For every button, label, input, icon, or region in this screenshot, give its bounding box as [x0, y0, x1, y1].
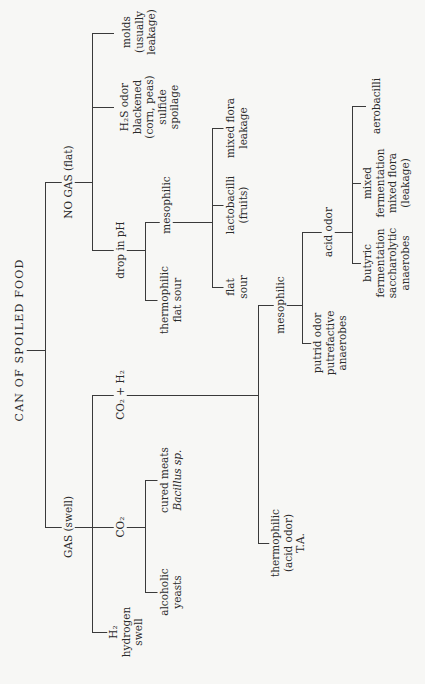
- node-co2: CO₂: [114, 514, 127, 541]
- connector: [212, 128, 213, 288]
- line: thermophilic: [269, 509, 282, 577]
- line: Bacillus sp.: [170, 447, 183, 513]
- connector: [145, 222, 213, 223]
- line: mixed: [361, 148, 374, 217]
- node-h2s-odor: H₂S odor blackened (corn, peas) sulfide …: [118, 72, 181, 141]
- line: sulfide: [155, 75, 168, 138]
- connector: [92, 395, 93, 633]
- line: molds: [120, 9, 133, 55]
- node-butyric-fermentation: butyric fermentation saccharolytic anaer…: [361, 225, 411, 302]
- line: H₂: [107, 607, 120, 657]
- line: leakage: [236, 98, 249, 158]
- connector: [26, 350, 46, 351]
- node-molds: molds (usually leakage): [120, 6, 158, 58]
- node-aerobacilli: aerobacilli: [370, 75, 383, 137]
- line: T.A.: [294, 509, 307, 577]
- line: flat: [224, 275, 237, 299]
- line: spoilage: [168, 75, 181, 138]
- line: (usually: [133, 9, 146, 55]
- node-alcoholic-yeasts: alcoholic yeasts: [158, 565, 183, 619]
- line: alcoholic: [158, 568, 171, 616]
- line: cured meats: [158, 447, 171, 513]
- connector: [45, 182, 46, 528]
- node-flat-sour: flat sour: [224, 272, 249, 302]
- node-gas: GAS (swell): [62, 493, 75, 561]
- node-lactobacilli: lactobacilli (fruits): [224, 173, 249, 237]
- connector: [352, 106, 366, 107]
- node-co2-h2: CO₂ + H₂: [114, 367, 127, 423]
- line: yeasts: [170, 568, 183, 616]
- line: mixed flora: [386, 148, 399, 217]
- line: fermentation: [374, 148, 387, 217]
- node-mixed-fermentation: mixed fermentation mixed flora (leakage): [361, 145, 411, 220]
- connector: [145, 222, 146, 301]
- line: flat sour: [170, 266, 183, 334]
- node-thermophilic-flat-sour: thermophilic flat sour: [158, 263, 183, 337]
- line: hydrogen: [120, 607, 133, 657]
- diagram-title: CAN OF SPOILED FOOD: [14, 256, 27, 425]
- line: lactobacilli: [224, 176, 237, 234]
- connector: [145, 480, 146, 593]
- node-putrid-odor: putrid odor putrefactive anaerobes: [311, 308, 349, 379]
- node-mesophilic-ph: mesophilic: [160, 173, 173, 236]
- connector: [92, 33, 93, 251]
- connector: [92, 107, 114, 108]
- line: anaerobes: [336, 311, 349, 376]
- node-mesophilic-gas: mesophilic: [274, 273, 287, 336]
- node-drop-in-ph: drop in pH: [114, 218, 127, 281]
- line: swell: [132, 607, 145, 657]
- node-thermophilic-ta: thermophilic (acid odor) T.A.: [269, 506, 307, 580]
- line: fermentation: [374, 228, 387, 299]
- node-mixed-flora-leakage: mixed flora leakage: [224, 95, 249, 161]
- node-cured-meats: cured meats Bacillus sp.: [158, 444, 183, 516]
- line: (fruits): [236, 176, 249, 234]
- line: thermophilic: [158, 266, 171, 334]
- line: sour: [236, 275, 249, 299]
- line: saccharolytic: [386, 228, 399, 299]
- line: (leakage): [399, 148, 412, 217]
- connector: [352, 106, 353, 264]
- node-acid-odor: acid odor: [322, 204, 335, 260]
- connector: [258, 305, 259, 544]
- line: leakage): [145, 9, 158, 55]
- line: butyric: [361, 228, 374, 299]
- line: anaerobes: [399, 228, 412, 299]
- line: blackened: [130, 75, 143, 138]
- node-no-gas: NO GAS (flat): [62, 142, 75, 221]
- node-h2-hydrogen-swell: H₂ hydrogen swell: [107, 604, 145, 660]
- connector: [302, 232, 303, 344]
- connector: [92, 33, 114, 34]
- line: H₂S odor: [118, 75, 131, 138]
- line: mixed flora: [224, 98, 237, 158]
- line: (acid odor): [282, 509, 295, 577]
- line: putrid odor: [311, 311, 324, 376]
- line: putrefactive: [324, 311, 337, 376]
- line: (corn, peas): [143, 75, 156, 138]
